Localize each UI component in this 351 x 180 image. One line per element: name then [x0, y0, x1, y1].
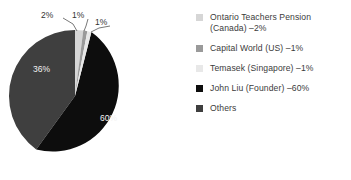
legend-label-temasek: Temasek (Singapore) –1% — [210, 63, 314, 74]
pie-label-temasek: 1% — [95, 17, 108, 27]
legend-swatch-others — [196, 105, 203, 112]
pie-label-john-liu: 60% — [100, 113, 117, 123]
pie-label-ontario: 2% — [41, 10, 54, 20]
legend-label-capital-world: Capital World (US) –1% — [210, 43, 303, 54]
pie-plot-area: 2% 1% 1% 36% 60% — [0, 0, 175, 180]
legend-swatch-temasek — [196, 65, 203, 72]
legend-label-john-liu: John Liu (Founder) –60% — [210, 83, 309, 94]
legend-item-others[interactable]: Others — [196, 103, 351, 114]
pie-svg: 2% 1% 1% 36% 60% — [0, 0, 175, 180]
legend-label-others: Others — [210, 103, 236, 114]
pie-label-capital-world: 1% — [72, 10, 85, 20]
legend-swatch-john-liu — [196, 85, 203, 92]
legend-swatch-ontario — [196, 14, 203, 21]
legend: Ontario Teachers Pension (Canada) –2% Ca… — [196, 12, 351, 123]
legend-item-temasek[interactable]: Temasek (Singapore) –1% — [196, 63, 351, 74]
legend-item-john-liu[interactable]: John Liu (Founder) –60% — [196, 83, 351, 94]
pie-label-others: 36% — [33, 64, 50, 74]
leader-line-capital-world — [84, 19, 88, 31]
legend-item-ontario[interactable]: Ontario Teachers Pension (Canada) –2% — [196, 12, 351, 34]
legend-item-capital-world[interactable]: Capital World (US) –1% — [196, 43, 351, 54]
legend-swatch-capital-world — [196, 45, 203, 52]
pie-chart-figure: 2% 1% 1% 36% 60% Ontario Teachers Pensio… — [0, 0, 351, 180]
legend-label-ontario: Ontario Teachers Pension (Canada) –2% — [210, 12, 311, 34]
